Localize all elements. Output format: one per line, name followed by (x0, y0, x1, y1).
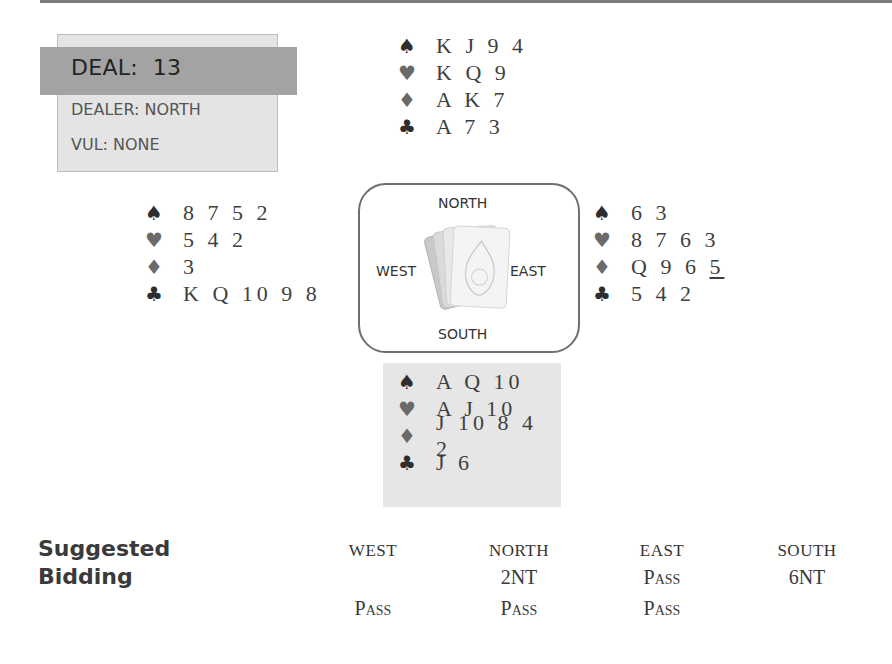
card-deck-icon (418, 219, 528, 319)
compass-west: WEST (376, 263, 416, 279)
compass-south: SOUTH (438, 326, 487, 342)
bid-header-east: EAST (602, 541, 722, 561)
deal-number: DEAL: 13 (71, 55, 181, 80)
club-icon: ♣ (589, 284, 615, 304)
opening-lead-card: 5 (709, 254, 724, 279)
compass-north: NORTH (438, 195, 487, 211)
heart-icon: ♥ (141, 230, 167, 250)
west-hand: ♠8 7 5 2 ♥5 4 2 ♦3 ♣K Q 10 9 8 (141, 199, 321, 307)
west-clubs: ♣K Q 10 9 8 (141, 280, 321, 307)
south-diamonds: ♦J 10 8 4 2 (394, 422, 561, 449)
east-spades: ♠6 3 (589, 199, 724, 226)
bid-r2-east: Pass (602, 597, 722, 620)
heart-icon: ♥ (394, 399, 420, 419)
north-hearts: ♥K Q 9 (394, 59, 527, 86)
club-icon: ♣ (141, 284, 167, 304)
diamond-icon: ♦ (394, 426, 420, 446)
north-hand: ♠K J 9 4 ♥K Q 9 ♦A K 7 ♣A 7 3 (394, 32, 527, 140)
bid-header-south: SOUTH (747, 541, 867, 561)
bid-r2-north: Pass (459, 597, 579, 620)
south-spades: ♠A Q 10 (394, 368, 561, 395)
east-diamonds: ♦Q 9 6 5 (589, 253, 724, 280)
bid-header-north: NORTH (459, 541, 579, 561)
west-diamonds: ♦3 (141, 253, 321, 280)
bid-header-west: WEST (313, 541, 433, 561)
west-hearts: ♥5 4 2 (141, 226, 321, 253)
vulnerability-label: VUL: NONE (71, 135, 160, 154)
spade-icon: ♠ (394, 372, 420, 392)
club-icon: ♣ (394, 117, 420, 137)
top-rule (40, 0, 892, 3)
north-spades: ♠K J 9 4 (394, 32, 527, 59)
bid-r1-north: 2NT (459, 566, 579, 589)
diamond-icon: ♦ (394, 90, 420, 110)
bid-r2-west: Pass (313, 597, 433, 620)
spade-icon: ♠ (394, 36, 420, 56)
bid-r1-south: 6NT (747, 566, 867, 589)
east-hand: ♠6 3 ♥8 7 6 3 ♦Q 9 6 5 ♣5 4 2 (589, 199, 724, 307)
north-diamonds: ♦A K 7 (394, 86, 527, 113)
east-clubs: ♣5 4 2 (589, 280, 724, 307)
diamond-icon: ♦ (589, 257, 615, 277)
east-hearts: ♥8 7 6 3 (589, 226, 724, 253)
club-icon: ♣ (394, 453, 420, 473)
south-hand: ♠A Q 10 ♥A J 10 ♦J 10 8 4 2 ♣J 6 (383, 363, 561, 507)
bid-r1-east: Pass (602, 566, 722, 589)
diamond-icon: ♦ (141, 257, 167, 277)
west-spades: ♠8 7 5 2 (141, 199, 321, 226)
north-clubs: ♣A 7 3 (394, 113, 527, 140)
spade-icon: ♠ (589, 203, 615, 223)
compass-table: NORTH WEST EAST SOUTH (358, 183, 580, 353)
heart-icon: ♥ (589, 230, 615, 250)
heart-icon: ♥ (394, 63, 420, 83)
bidding-title: Suggested Bidding (38, 535, 170, 591)
dealer-label: DEALER: NORTH (71, 100, 201, 119)
spade-icon: ♠ (141, 203, 167, 223)
